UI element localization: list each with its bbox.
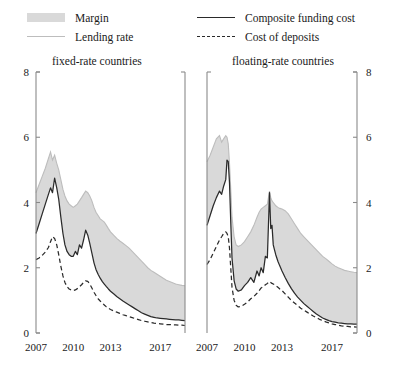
legend-column-right: Composite funding cost Cost of deposits [196, 8, 355, 46]
x-axis-tick-label: 2013 [100, 341, 123, 353]
legend-item-cost-of-deposits: Cost of deposits [196, 27, 355, 46]
y-axis-tick-label: 6 [24, 131, 30, 143]
figure: Margin Lending rate Composite funding co… [0, 0, 396, 369]
chart-legend: Margin Lending rate Composite funding co… [0, 0, 396, 52]
y-axis-tick-label: 4 [366, 197, 372, 209]
margin-swatch-icon [26, 13, 66, 23]
y-axis-tick-label: 0 [366, 327, 372, 339]
legend-label-lending-rate: Lending rate [75, 31, 133, 43]
x-axis-tick-label: 2017 [321, 341, 344, 353]
chart-panel-floating-rate-countries: 024682007201020132017 [190, 60, 396, 369]
x-axis-tick-label: 2017 [149, 341, 172, 353]
x-axis-tick-label: 2010 [234, 341, 257, 353]
y-axis-tick-label: 8 [24, 66, 30, 78]
x-axis-tick-label: 2010 [62, 341, 85, 353]
chart-panel-fixed-rate-countries: 024682007201020132017 [0, 60, 190, 369]
lending-rate-line-icon [26, 32, 66, 42]
y-axis-tick-label: 4 [24, 197, 30, 209]
legend-label-composite-funding-cost: Composite funding cost [245, 12, 355, 24]
x-axis-tick-label: 2013 [271, 341, 294, 353]
legend-column-left: Margin Lending rate [26, 8, 133, 46]
y-axis-tick-label: 0 [24, 327, 30, 339]
legend-label-cost-of-deposits: Cost of deposits [245, 31, 319, 43]
x-axis-tick-label: 2007 [196, 341, 219, 353]
y-axis-tick-label: 6 [366, 131, 372, 143]
x-axis-tick-label: 2007 [25, 341, 48, 353]
legend-item-lending-rate: Lending rate [26, 27, 133, 46]
y-axis-tick-label: 8 [366, 66, 372, 78]
margin-band [36, 152, 185, 321]
y-axis-tick-label: 2 [366, 262, 372, 274]
legend-item-composite-funding-cost: Composite funding cost [196, 8, 355, 27]
legend-item-margin: Margin [26, 8, 133, 27]
cost-of-deposits-line-icon [196, 32, 236, 42]
legend-label-margin: Margin [75, 12, 109, 24]
composite-funding-cost-line-icon [196, 13, 236, 23]
y-axis-tick-label: 2 [24, 262, 30, 274]
